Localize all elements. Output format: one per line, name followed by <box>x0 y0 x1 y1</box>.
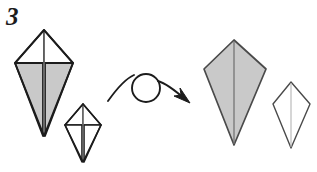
turn-over-arrow-loop <box>132 74 160 102</box>
turn-over-arrow-tail <box>108 75 134 101</box>
kite-base-after-large <box>204 40 266 145</box>
origami-step-diagram: 3 <box>0 0 317 172</box>
turn-over-arrow-head <box>174 88 190 103</box>
kite-base-before-small <box>65 104 101 162</box>
kite-base-after-small <box>273 82 310 148</box>
kite-base-before-large <box>15 30 73 136</box>
diagram-canvas <box>0 0 317 172</box>
body-after-large <box>204 40 266 145</box>
turn-over-arrow <box>108 74 190 103</box>
